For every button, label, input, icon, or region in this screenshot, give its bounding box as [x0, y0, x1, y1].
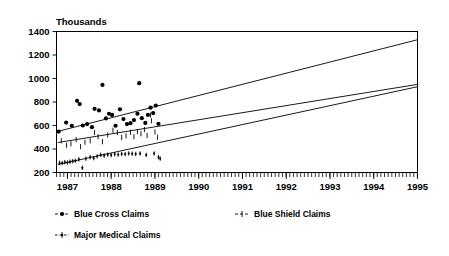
data-point-major-medical-claims: [153, 151, 155, 155]
data-point-blue-cross-claims: [148, 106, 152, 110]
data-point-major-medical-claims: [67, 160, 69, 164]
x-axis-minor-ticks: [57, 173, 418, 178]
legend-item-blue-shield-claims: Blue Shield Claims: [235, 209, 331, 219]
data-point-blue-cross-claims: [85, 122, 89, 126]
x-tick-label: 1989: [144, 181, 165, 192]
y-tick-label: 400: [34, 143, 50, 154]
data-point-blue-cross-claims: [151, 111, 155, 115]
y-tick-label: 1200: [28, 49, 49, 60]
x-tick-label: 1992: [276, 181, 297, 192]
data-point-blue-cross-claims: [92, 107, 96, 111]
data-point-major-medical-claims: [145, 153, 147, 157]
legend-label-blue-cross-claims: Blue Cross Claims: [74, 209, 149, 219]
data-point-major-medical-claims: [159, 156, 161, 160]
legend-item-blue-cross-claims: Blue Cross Claims: [55, 209, 149, 219]
data-point-blue-cross-claims: [128, 121, 132, 125]
data-point-major-medical-claims: [72, 159, 74, 163]
x-axis-ticks: 198719881989199019911992199319941995: [57, 173, 429, 192]
data-point-major-medical-claims: [158, 155, 160, 159]
data-point-blue-cross-claims: [118, 107, 122, 111]
legend-label-major-medical-claims: Major Medical Claims: [74, 230, 161, 240]
data-point-major-medical-claims: [107, 152, 109, 156]
data-point-blue-cross-claims: [156, 122, 160, 126]
data-point-blue-cross-claims: [113, 124, 117, 128]
data-point-blue-cross-claims: [104, 116, 108, 120]
x-tick-label: 1987: [57, 181, 78, 192]
data-point-major-medical-claims: [110, 153, 112, 157]
data-point-blue-cross-claims: [90, 125, 94, 129]
x-tick-label: 1991: [232, 181, 254, 192]
x-tick-label: 1994: [363, 181, 385, 192]
y-tick-label: 600: [34, 120, 50, 131]
data-point-blue-cross-claims: [135, 112, 139, 116]
legend-label-blue-shield-claims: Blue Shield Claims: [254, 209, 331, 219]
y-tick-label: 200: [34, 167, 50, 178]
legend-marker-blue-cross-claims: [60, 212, 64, 216]
data-point-major-medical-claims: [121, 152, 123, 156]
data-points: [57, 81, 162, 170]
data-point-blue-cross-claims: [75, 99, 79, 103]
data-point-blue-cross-claims: [64, 120, 68, 124]
data-point-major-medical-claims: [85, 156, 87, 160]
data-point-major-medical-claims: [78, 157, 80, 161]
y-tick-label: 1400: [28, 26, 49, 37]
trend-line-blue-cross-claims: [58, 40, 418, 132]
data-point-major-medical-claims: [135, 152, 137, 156]
scatter-chart: Thousands 200400600800100012001400 19871…: [0, 0, 449, 256]
data-point-major-medical-claims: [131, 152, 133, 156]
x-tick-label: 1993: [319, 181, 340, 192]
data-point-major-medical-claims: [96, 154, 98, 158]
legend-marker-major-medical-claims: [61, 234, 63, 236]
data-point-major-medical-claims: [117, 152, 119, 156]
data-point-major-medical-claims: [100, 153, 102, 157]
data-point-major-medical-claims: [139, 151, 141, 155]
data-point-major-medical-claims: [128, 151, 130, 155]
trend-line-major-medical-claims: [58, 87, 418, 165]
data-point-blue-cross-claims: [100, 83, 104, 87]
data-point-blue-cross-claims: [110, 113, 114, 117]
data-point-blue-cross-claims: [57, 130, 61, 134]
plot-frame: [57, 32, 418, 173]
data-point-blue-cross-claims: [97, 108, 101, 112]
legend-item-major-medical-claims: Major Medical Claims: [55, 230, 161, 240]
data-point-major-medical-claims: [89, 155, 91, 159]
data-point-major-medical-claims: [69, 159, 71, 163]
x-tick-label: 1990: [188, 181, 209, 192]
series-blue-cross-claims: [57, 81, 161, 134]
data-point-major-medical-claims: [124, 152, 126, 156]
trend-lines: [58, 40, 418, 165]
data-point-blue-cross-claims: [78, 102, 82, 106]
data-point-major-medical-claims: [81, 166, 83, 170]
data-point-blue-cross-claims: [81, 123, 85, 127]
data-point-blue-cross-claims: [132, 118, 136, 122]
y-tick-label: 800: [34, 96, 50, 107]
x-tick-label: 1988: [101, 181, 122, 192]
data-point-blue-cross-claims: [137, 81, 141, 85]
data-point-blue-cross-claims: [140, 116, 144, 120]
y-tick-label: 1000: [28, 73, 49, 84]
x-tick-label: 1995: [407, 181, 429, 192]
data-point-blue-cross-claims: [121, 117, 125, 121]
data-point-blue-cross-claims: [143, 121, 147, 125]
y-axis-title: Thousands: [56, 16, 107, 27]
y-axis-ticks: 200400600800100012001400: [28, 26, 56, 178]
data-point-blue-cross-claims: [70, 124, 74, 128]
data-point-blue-cross-claims: [154, 103, 158, 107]
chart-legend: Blue Cross ClaimsBlue Shield ClaimsMajor…: [55, 209, 331, 240]
y-axis-title-label: Thousands: [56, 16, 107, 27]
data-point-blue-cross-claims: [146, 113, 150, 117]
chart-figure: Thousands 200400600800100012001400 19871…: [0, 0, 449, 256]
data-point-major-medical-claims: [64, 160, 66, 164]
data-point-major-medical-claims: [74, 159, 76, 163]
data-point-major-medical-claims: [61, 161, 63, 165]
